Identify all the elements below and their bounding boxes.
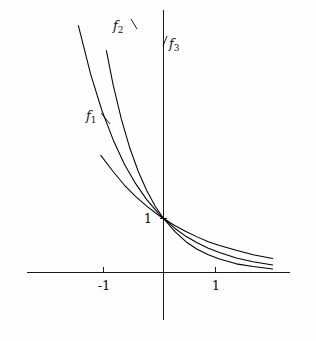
x-tick-label-minus-one: -1: [98, 278, 111, 293]
curve-label-f3-subscript: 3: [174, 43, 180, 53]
exponential-decay-plot: -1 1 1 f1 f2 f3: [0, 0, 316, 341]
x-tick-label-one: 1: [212, 278, 220, 293]
curve-label-f2-subscript: 2: [118, 25, 124, 35]
plot-background: [0, 0, 316, 341]
curve-label-f1-subscript: 1: [91, 115, 97, 125]
y-tick-label-one: 1: [144, 211, 152, 226]
